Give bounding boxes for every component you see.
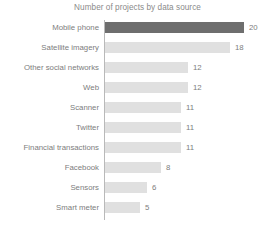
bar-row[interactable]: Other social networks12 [0, 60, 275, 80]
bar-row[interactable]: Sensors6 [0, 180, 275, 200]
bar[interactable] [105, 42, 230, 53]
chart-title: Number of projects by data source [0, 3, 275, 12]
bar-chart: Number of projects by data source Mobile… [0, 0, 275, 239]
category-label: Sensors [0, 183, 99, 192]
bar-value-label: 8 [166, 163, 170, 172]
bar-row[interactable]: Twitter11 [0, 120, 275, 140]
category-label: Smart meter [0, 203, 99, 212]
bar-row[interactable]: Facebook8 [0, 160, 275, 180]
bar-row[interactable]: Web12 [0, 80, 275, 100]
bar-value-label: 11 [186, 103, 194, 112]
bar[interactable] [105, 82, 188, 93]
bar-row[interactable]: Mobile phone20 [0, 20, 275, 40]
category-label: Other social networks [0, 63, 99, 72]
category-label: Satellite imagery [0, 43, 99, 52]
category-label: Mobile phone [0, 23, 99, 32]
bar[interactable] [105, 142, 181, 153]
bar[interactable] [105, 122, 181, 133]
bar-value-label: 18 [235, 43, 244, 52]
plot-area: Mobile phone20Satellite imagery18Other s… [0, 20, 275, 222]
category-label: Web [0, 83, 99, 92]
category-label: Scanner [0, 103, 99, 112]
bar-row[interactable]: Satellite imagery18 [0, 40, 275, 60]
bar-row[interactable]: Smart meter5 [0, 200, 275, 220]
bar[interactable] [105, 182, 147, 193]
bar-value-label: 6 [152, 183, 156, 192]
category-label: Facebook [0, 163, 99, 172]
bar[interactable] [105, 162, 161, 173]
bar-value-label: 12 [193, 63, 202, 72]
bar-value-label: 11 [186, 123, 194, 132]
bar-value-label: 12 [193, 83, 202, 92]
category-label: Twitter [0, 123, 99, 132]
bar[interactable] [105, 102, 181, 113]
bar-row[interactable]: Scanner11 [0, 100, 275, 120]
bar[interactable] [105, 202, 140, 213]
bar[interactable] [105, 62, 188, 73]
bar-value-label: 11 [186, 143, 194, 152]
bar-row[interactable]: Financial transactions11 [0, 140, 275, 160]
category-label: Financial transactions [0, 143, 99, 152]
bar-value-label: 20 [249, 23, 258, 32]
bar-value-label: 5 [145, 203, 149, 212]
bar[interactable] [105, 22, 244, 33]
